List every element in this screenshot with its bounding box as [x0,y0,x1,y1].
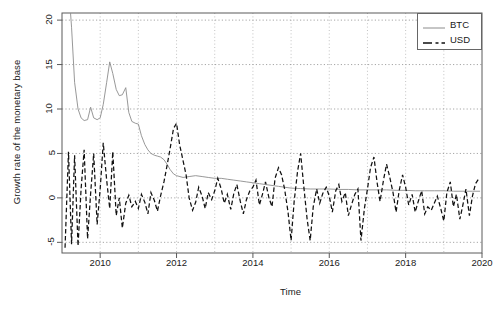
x-tick-label: 2012 [157,257,197,268]
legend-key-dashed-icon [422,34,446,44]
chart-figure: Growth rate of the monetary base Time 20… [0,0,498,312]
axis-ticks [57,20,482,258]
legend-key-solid-icon [422,19,446,29]
y-tick-label: 5 [32,147,54,158]
x-tick-label: 2020 [462,257,498,268]
x-tick-label: 2018 [386,257,426,268]
legend-label-usd: USD [450,34,470,45]
y-tick-label: 15 [32,59,54,70]
y-tick-label: 0 [32,192,54,203]
x-axis-title: Time [203,286,378,297]
x-tick-label: 2016 [309,257,349,268]
legend-label-btc: BTC [450,19,469,30]
legend: BTC USD [417,13,482,50]
x-tick-label: 2010 [80,257,120,268]
legend-item-btc: BTC [422,17,469,31]
y-tick-label: -5 [32,236,54,247]
y-axis-title: Growth rate of the monetary base [11,12,22,252]
y-tick-label: 20 [32,14,54,25]
x-tick-label: 2014 [233,257,273,268]
y-tick-label: 10 [32,103,54,114]
legend-item-usd: USD [422,32,470,46]
